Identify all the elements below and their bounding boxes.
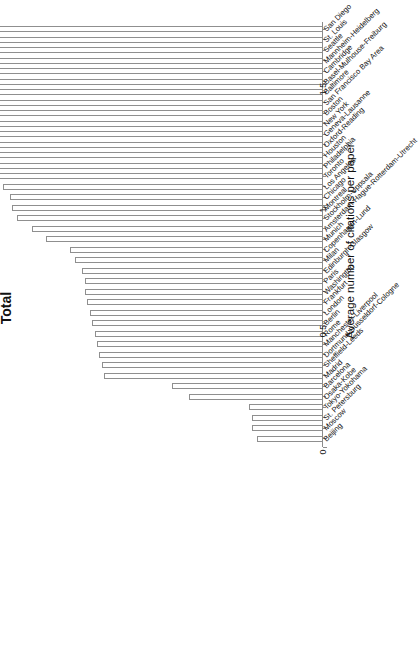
value-axis-tick-label: 0 [318,449,328,454]
value-axis-tick [323,205,327,206]
bar [0,26,322,32]
bar [90,310,322,316]
bar [32,226,322,232]
bar [172,383,322,389]
value-axis-tick-label: 1 [318,207,328,212]
bar [0,89,322,95]
bar [0,100,322,106]
bar [97,341,322,347]
bar [102,362,322,368]
bar [257,436,322,442]
value-axis-title: Average number of citations per paper [344,143,356,338]
bar [3,184,322,190]
bar [0,142,322,148]
bar [0,79,322,85]
bar [70,247,322,253]
bar [0,58,322,64]
bar [92,320,322,326]
bar [46,236,322,242]
bar [85,278,322,284]
page-title: Total [0,292,14,324]
value-axis-tick-label: 1.5 [318,83,328,96]
bar [104,373,322,379]
value-axis-tick [323,447,327,448]
bar [0,131,322,137]
value-axis-tick-label: 0.5 [318,325,328,338]
bar [189,394,322,400]
bar [0,110,322,116]
bar [252,415,322,421]
bar [249,404,322,410]
bar [17,215,322,221]
bar [0,37,322,43]
bar [0,68,322,74]
bar [0,152,322,158]
bar [82,268,322,274]
bar [0,173,322,179]
bar [75,257,322,263]
bar [252,425,322,431]
bar [10,194,322,200]
bar [87,299,322,305]
bar [0,163,322,169]
bar [95,331,322,337]
bar [0,47,322,53]
bar [85,289,322,295]
bar [99,352,322,358]
bar [12,205,322,211]
bar [0,121,322,127]
